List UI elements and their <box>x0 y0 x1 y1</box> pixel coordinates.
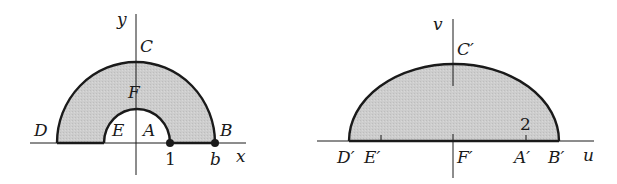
label-C: C <box>140 36 153 56</box>
label-E: E <box>111 120 125 140</box>
label-D: D <box>33 120 48 140</box>
label-F-prime: F′ <box>456 147 473 167</box>
u-axis-label: u <box>583 145 594 165</box>
label-D-prime: D′ <box>336 147 355 167</box>
label-C-prime: C′ <box>457 39 474 59</box>
label-A: A <box>141 120 155 140</box>
label-B-prime: B′ <box>547 147 564 167</box>
right-diagram: v u C′ 2 D′ E′ F′ A′ B′ <box>317 14 594 178</box>
tick-label-b: b <box>210 149 221 169</box>
tick-label-1: 1 <box>165 149 176 169</box>
v-axis-label: v <box>433 14 443 34</box>
label-F: F <box>127 82 141 102</box>
tick-label-2: 2 <box>520 114 531 134</box>
label-A-prime: A′ <box>512 147 530 167</box>
label-B: B <box>219 120 233 140</box>
left-diagram: y x C F D E A B 1 b <box>30 9 246 175</box>
conformal-map-figure: y x C F D E A B 1 b v u C′ 2 D′ E′ F′ A′… <box>0 0 617 184</box>
label-E-prime: E′ <box>363 147 380 167</box>
point-b-dot <box>211 139 219 147</box>
x-axis-label: x <box>236 146 246 166</box>
y-axis-label: y <box>116 9 127 29</box>
point-1-dot <box>166 139 174 147</box>
